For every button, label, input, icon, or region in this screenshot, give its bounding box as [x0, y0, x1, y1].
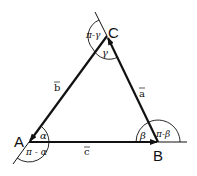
- vertex-label-c: C: [108, 24, 119, 41]
- angle-label-beta: β: [139, 130, 146, 141]
- angle-label-ext-gamma: π-γ: [85, 30, 101, 40]
- vector-label-c: c: [84, 146, 90, 157]
- angle-label-ext-alpha: π - α: [25, 147, 47, 157]
- vector-a: [108, 38, 158, 142]
- vertex-label-a: A: [14, 133, 24, 150]
- triangle-diagram: A B C b a c γ π-γ α π - α β π-β: [0, 0, 197, 176]
- vector-label-a: a: [139, 88, 145, 99]
- vertex-label-b: B: [153, 147, 163, 164]
- angle-label-alpha: α: [40, 130, 47, 141]
- vector-label-b: b: [54, 82, 60, 93]
- angle-label-gamma: γ: [102, 47, 108, 58]
- angle-label-ext-beta: π-β: [155, 129, 170, 139]
- vector-b: [30, 36, 107, 141]
